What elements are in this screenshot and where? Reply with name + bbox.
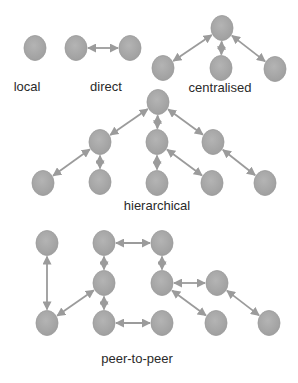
network-node xyxy=(146,171,168,196)
network-node xyxy=(206,271,228,296)
network-node xyxy=(147,90,169,115)
nodes-local xyxy=(24,36,46,61)
nodes-hierarchical xyxy=(32,90,276,196)
network-node xyxy=(210,56,232,81)
network-node xyxy=(24,36,46,61)
network-node xyxy=(151,271,173,296)
network-node xyxy=(93,231,115,256)
network-node xyxy=(211,16,233,41)
bidirectional-arrow xyxy=(232,36,265,62)
label-hierarchical: hierarchical xyxy=(124,199,190,212)
nodes-centralised xyxy=(152,16,286,82)
network-topology-diagram xyxy=(0,0,298,383)
network-node xyxy=(264,57,286,82)
network-node xyxy=(151,231,173,256)
nodes-layer xyxy=(24,16,286,336)
label-direct: direct xyxy=(90,80,122,93)
network-node xyxy=(146,130,168,155)
network-node xyxy=(119,36,141,61)
network-node xyxy=(93,271,115,296)
bidirectional-arrow xyxy=(110,109,148,135)
network-node xyxy=(32,171,54,196)
network-node xyxy=(202,130,224,155)
network-node xyxy=(151,311,173,336)
network-node xyxy=(254,171,276,196)
nodes-peer-to-peer xyxy=(36,231,280,336)
network-node xyxy=(89,130,111,155)
network-node xyxy=(36,311,58,336)
label-peer-to-peer: peer-to-peer xyxy=(101,352,173,365)
network-node xyxy=(201,171,223,196)
network-node xyxy=(152,56,174,81)
bidirectional-arrow xyxy=(223,150,255,176)
bidirectional-arrow xyxy=(172,290,206,315)
label-centralised: centralised xyxy=(189,81,252,94)
network-node xyxy=(65,36,87,61)
bidirectional-arrow xyxy=(57,290,94,316)
bidirectional-arrow xyxy=(167,149,202,175)
bidirectional-arrow xyxy=(227,291,259,316)
network-node xyxy=(36,231,58,256)
network-node xyxy=(258,311,280,336)
label-local: local xyxy=(14,80,41,93)
bidirectional-arrow xyxy=(173,35,211,61)
bidirectional-arrow xyxy=(53,149,90,175)
network-node xyxy=(205,311,227,336)
network-node xyxy=(93,311,115,336)
network-node xyxy=(89,170,111,195)
bidirectional-arrow xyxy=(168,109,203,134)
